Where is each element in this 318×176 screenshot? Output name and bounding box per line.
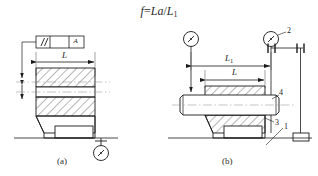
- formula-denominator-subscript: 1: [173, 10, 177, 19]
- formula-expression: f=La/L1: [0, 5, 318, 19]
- formula-operator: =: [144, 4, 151, 18]
- formula-numerator: La: [151, 4, 164, 18]
- subfigure-b: [168, 32, 312, 146]
- engineering-drawing-figure: f=La/L1: [0, 0, 318, 176]
- leader-1: [266, 128, 283, 145]
- dimension-label-L1-b: L1: [225, 54, 233, 65]
- callout-4-label: 4: [279, 89, 283, 97]
- caption-a: (a): [57, 157, 67, 166]
- callout-3-label: 3: [275, 119, 279, 127]
- caption-b: (b): [222, 157, 233, 166]
- workpiece-a: [36, 68, 95, 138]
- dimension-label-L-a: L: [62, 51, 67, 62]
- leader-3: [265, 118, 274, 122]
- tolerance-leader-a: [22, 42, 36, 78]
- dimension-label-L-b: L: [232, 68, 237, 79]
- callout-1-label: 1: [284, 123, 288, 131]
- tolerance-datum-letter-a: A: [74, 38, 78, 45]
- dial-indicator-a: [94, 138, 109, 161]
- drawing-canvas: [0, 0, 318, 176]
- callout-2-label: 2: [287, 27, 291, 35]
